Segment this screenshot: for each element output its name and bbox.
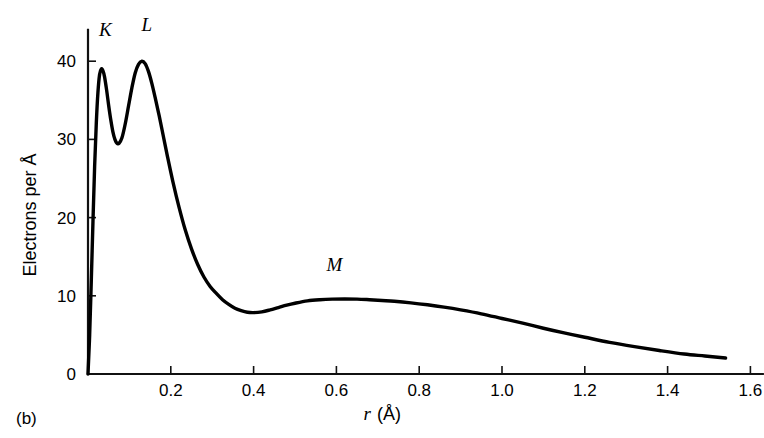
y-tick-label: 10 [57,287,76,306]
x-tick-label: 1.6 [739,381,763,400]
y-axis-title: Electrons per Å [20,153,40,276]
chart-axes [88,30,763,374]
radial-electron-density-chart: 0.20.40.60.81.01.21.41.6 010203040 KLM E… [0,0,764,438]
x-tick-label: 1.2 [573,381,597,400]
y-tick-label: 30 [57,130,76,149]
shell-label-l: L [140,14,152,35]
x-tick-label: 1.4 [656,381,680,400]
x-axis-ticks: 0.20.40.60.81.01.21.41.6 [159,366,762,400]
y-tick-label: 40 [57,52,76,71]
x-tick-label: 1.0 [490,381,514,400]
figure-panel: 0.20.40.60.81.01.21.41.6 010203040 KLM E… [0,0,764,438]
x-tick-label: 0.6 [325,381,349,400]
x-tick-label: 0.2 [159,381,183,400]
x-axis-title-variable: r [364,403,372,424]
shell-label-m: M [325,254,343,275]
x-axis-title: r (Å) [364,403,401,424]
y-tick-label: 20 [57,209,76,228]
panel-label: (b) [16,409,37,428]
shell-annotations: KLM [98,14,343,274]
x-tick-label: 0.8 [407,381,431,400]
electron-density-curve [88,61,726,374]
x-axis-title-unit: (Å) [377,404,401,424]
x-tick-label: 0.4 [242,381,266,400]
y-tick-label: 0 [67,365,76,384]
shell-label-k: K [98,19,113,40]
